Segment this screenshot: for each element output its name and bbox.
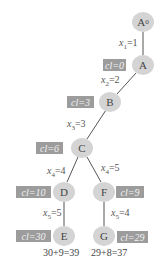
edge-label-x4-right: x4=5	[101, 162, 120, 176]
edge-label-x1: x1=1	[119, 37, 138, 51]
edge-label-x2: x2=2	[101, 74, 120, 88]
cl-label-d: cl=10	[16, 186, 51, 198]
edge-label-x3: x3=3	[67, 118, 86, 132]
edge-label-x4-left: x4=4	[47, 165, 66, 179]
edge-label-x5-right-val: =4	[119, 207, 130, 218]
edge-a-b	[117, 73, 136, 94]
cl-label-b: cl=3	[67, 96, 94, 108]
edge-label-x2-val: =2	[109, 74, 120, 85]
node-g-label: G	[100, 230, 108, 242]
edge-label-x4-right-val: =5	[109, 162, 120, 173]
node-e-label: E	[61, 230, 68, 242]
edge-c-f	[87, 157, 101, 182]
cl-label-f: cl=9	[116, 186, 144, 198]
node-d: D	[53, 182, 75, 202]
node-e: E	[53, 226, 75, 246]
node-d-label: D	[60, 186, 68, 198]
edge-label-x1-val: =1	[127, 37, 138, 48]
cl-label-a: cl=0	[103, 59, 126, 71]
node-a0-label: A	[137, 16, 145, 28]
sum-label-e: 30+9=39	[43, 247, 79, 258]
node-g: G	[93, 226, 115, 246]
node-b-label: B	[106, 96, 113, 108]
edge-c-d	[67, 157, 78, 182]
cl-label-e: cl=30	[16, 230, 51, 242]
node-a-label: A	[139, 59, 147, 71]
node-a0-sub: 0	[145, 18, 149, 26]
cl-label-g: cl=29	[117, 231, 148, 243]
edge-label-x5-left: x5=5	[43, 207, 62, 221]
edge-label-x5-left-val: =5	[51, 207, 62, 218]
edge-b-c	[87, 110, 106, 139]
node-f-label: F	[101, 186, 107, 198]
edge-label-x5-right: x5=4	[111, 207, 130, 221]
cl-label-c: cl=6	[36, 142, 63, 154]
node-c-label: C	[78, 142, 85, 154]
sum-label-g: 29+8=37	[91, 247, 127, 258]
edge-label-x3-val: =3	[75, 118, 86, 129]
node-c: C	[71, 138, 93, 158]
edge-label-x4-left-val: =4	[55, 165, 66, 176]
node-a: A	[132, 55, 154, 75]
node-b: B	[99, 92, 121, 112]
node-a0: A0	[132, 12, 154, 32]
node-f: F	[93, 182, 115, 202]
